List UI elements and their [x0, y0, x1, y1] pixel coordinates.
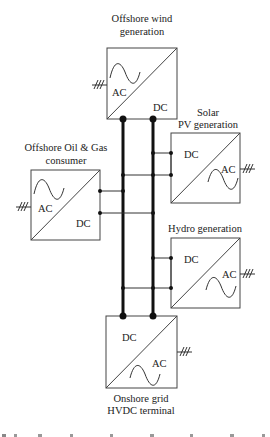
hydro-ac-label: AC: [222, 269, 237, 280]
node-onshore-grid: DC AC Onshore grid HVDC terminal: [106, 313, 192, 417]
oilgas-three-phase-icon: [16, 202, 31, 211]
hydro-three-phase-icon: [240, 269, 255, 278]
oilgas-title-line2: consumer: [46, 155, 87, 166]
wind-three-phase-icon: [92, 80, 107, 89]
solar-title-line2: PV generation: [178, 119, 239, 130]
onshore-title-line2: HVDC terminal: [107, 405, 174, 416]
solar-three-phase-icon: [240, 164, 255, 173]
hvdc-diagram: Offshore wind generation AC DC Offshore …: [0, 0, 270, 437]
onshore-title-line1: Onshore grid: [113, 393, 169, 404]
node-hydro: Hydro generation DC AC: [121, 223, 255, 308]
solar-title-line1: Solar: [197, 107, 220, 118]
onshore-three-phase-icon: [177, 347, 192, 356]
node-offshore-oil-gas: Offshore Oil & Gas consumer AC DC: [16, 142, 155, 240]
wind-ac-label: AC: [112, 87, 127, 98]
wind-title-line2: generation: [120, 26, 165, 37]
solar-dc-label: DC: [184, 149, 199, 160]
hydro-title: Hydro generation: [168, 223, 243, 234]
wind-title-line1: Offshore wind: [112, 13, 174, 24]
oilgas-ac-label: AC: [38, 203, 53, 214]
oilgas-title-line1: Offshore Oil & Gas: [25, 142, 108, 153]
wind-dc-label: DC: [153, 102, 168, 113]
onshore-ac-label: AC: [152, 358, 167, 369]
solar-ac-label: AC: [221, 164, 236, 175]
onshore-dc-label: DC: [122, 332, 137, 343]
node-offshore-wind: Offshore wind generation AC DC: [92, 13, 177, 123]
node-solar-pv: Solar PV generation DC AC: [121, 107, 255, 203]
hydro-dc-label: DC: [184, 254, 199, 265]
oilgas-dc-label: DC: [76, 218, 91, 229]
